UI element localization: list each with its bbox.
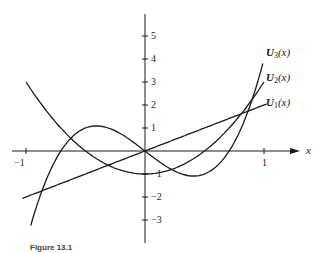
y-tick-label: 3: [151, 76, 156, 87]
chart-canvas: −1 1 x 5 4 3 2 1 −1 −2 −3 U3(x) U2(x) U1…: [0, 0, 325, 253]
y-tick-label: −3: [151, 214, 162, 225]
legend-u2: U2(x): [266, 71, 290, 85]
y-tick-label: 4: [151, 53, 156, 64]
y-tick-label: 2: [151, 99, 156, 110]
x-axis-label: x: [305, 144, 311, 156]
series-u3-line: [31, 64, 263, 226]
x-tick-label-1: 1: [262, 157, 267, 168]
x-axis-arrow-icon: [290, 148, 300, 154]
figure-caption: Figure 13.1: [30, 243, 72, 252]
y-tick-label: −2: [151, 191, 162, 202]
y-tick-label: 1: [151, 122, 156, 133]
legend-u1: U1(x): [266, 96, 290, 110]
legend-u3: U3(x): [266, 46, 290, 60]
x-tick-label-neg1: −1: [14, 157, 25, 168]
y-tick-label: 5: [151, 30, 156, 41]
